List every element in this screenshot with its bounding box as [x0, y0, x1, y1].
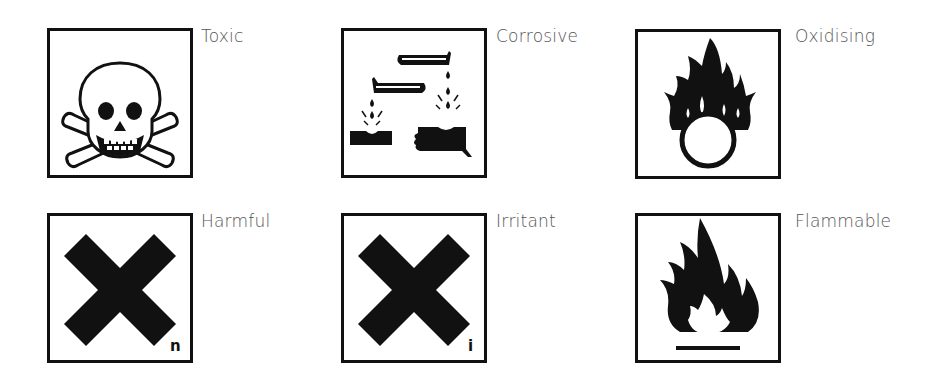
corrosive-pictogram-box — [341, 28, 487, 178]
toxic-pictogram-box — [47, 28, 193, 178]
category-letter: n — [170, 337, 181, 355]
symbol-label: Toxic — [201, 26, 244, 46]
symbol-label: Flammable — [795, 211, 891, 231]
symbol-label: Oxidising — [795, 26, 875, 46]
category-letter: i — [468, 337, 473, 355]
oxidising-pictogram-box — [635, 29, 781, 179]
symbol-label: Corrosive — [496, 26, 578, 46]
flammable-pictogram-box — [635, 213, 781, 363]
flame-icon — [638, 216, 778, 360]
skull-crossbones-icon — [50, 31, 190, 175]
x-cross-icon — [344, 216, 484, 360]
flame-over-circle-icon — [638, 32, 778, 176]
irritant-pictogram-box: i — [341, 213, 487, 363]
x-cross-icon — [50, 216, 190, 360]
corrosive-icon — [344, 31, 484, 175]
symbol-label: Harmful — [201, 211, 270, 231]
harmful-pictogram-box: n — [47, 213, 193, 363]
symbol-label: Irritant — [496, 211, 556, 231]
